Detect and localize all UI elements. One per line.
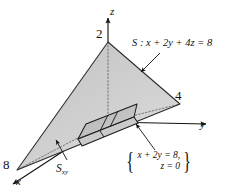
leader-to-surface (141, 53, 160, 72)
y-intercept-label: 4 (175, 89, 182, 102)
trace-system-line-2: z = 0 (137, 161, 180, 172)
surface-equation-label: S : x + 2y + 4z = 8 (132, 38, 212, 49)
x-axis-label: x (16, 176, 21, 187)
trace-system-label: { x + 2y = 8, z = 0 } (124, 150, 194, 172)
leader-to-trace (136, 124, 155, 150)
y-axis-label: y (200, 119, 205, 130)
left-brace: { (126, 151, 134, 171)
z-intercept-label: 2 (96, 27, 103, 40)
projection-subscript: xy (62, 168, 68, 176)
right-brace: } (183, 151, 191, 171)
z-axis-label: z (110, 6, 114, 17)
trace-system-line-1: x + 2y = 8, (137, 150, 180, 161)
trace-system-rows: x + 2y = 8, z = 0 (136, 150, 181, 172)
projection-region-label: Sxy (56, 163, 68, 176)
x-intercept-label: 8 (3, 158, 10, 171)
tetrahedron-figure (0, 0, 228, 191)
